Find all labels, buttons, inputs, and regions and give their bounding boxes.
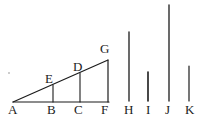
hypotenuse-AG	[13, 60, 108, 102]
triangle-group	[13, 60, 109, 102]
vertex-label-E: E	[45, 72, 53, 85]
vertex-label-D: D	[73, 60, 82, 73]
vertex-label-A: A	[8, 103, 17, 116]
geometry-figure: A B C F H I J K E D G	[0, 0, 203, 122]
bar-group	[129, 5, 189, 101]
vertex-label-F: F	[101, 103, 108, 116]
vertex-label-G: G	[100, 42, 109, 55]
bar-label-I: I	[146, 103, 150, 116]
stray-ink-speck	[8, 72, 10, 74]
bar-label-H: H	[124, 103, 133, 116]
vertex-label-C: C	[74, 103, 83, 116]
bar-label-J: J	[165, 103, 170, 116]
vertex-label-B: B	[47, 103, 56, 116]
bar-label-K: K	[185, 103, 194, 116]
